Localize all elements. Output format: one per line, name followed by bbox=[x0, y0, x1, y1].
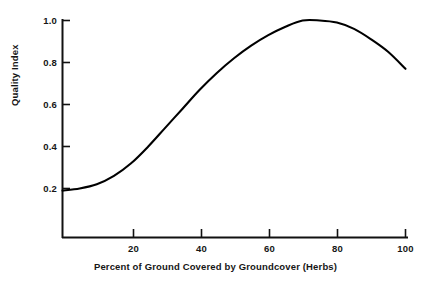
y-tick-label-0.2: 0.2 bbox=[27, 184, 57, 194]
y-tick-label-0.6: 0.6 bbox=[27, 100, 57, 110]
x-tick-label-20: 20 bbox=[128, 244, 139, 254]
plot-canvas bbox=[0, 0, 431, 289]
y-axis-title: Quality Index bbox=[10, 16, 20, 106]
chart-figure: 1.0 0.8 0.6 0.4 0.2 20 40 60 80 100 Perc… bbox=[0, 0, 431, 289]
x-tick-label-40: 40 bbox=[196, 244, 207, 254]
x-tick-label-80: 80 bbox=[332, 244, 343, 254]
x-tick-label-100: 100 bbox=[397, 244, 413, 254]
x-axis-title: Percent of Ground Covered by Groundcover… bbox=[0, 262, 431, 272]
x-tick-label-60: 60 bbox=[264, 244, 275, 254]
x-tick-marks bbox=[134, 229, 406, 237]
data-series-line bbox=[63, 20, 406, 191]
y-tick-label-0.8: 0.8 bbox=[27, 58, 57, 68]
y-tick-label-0.4: 0.4 bbox=[27, 142, 57, 152]
y-tick-label-1.0: 1.0 bbox=[27, 16, 57, 26]
